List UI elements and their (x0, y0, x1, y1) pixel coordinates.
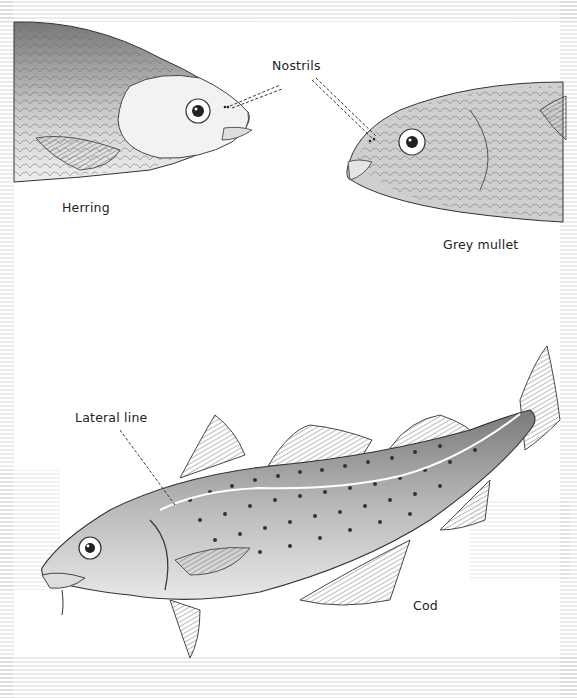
label-grey-mullet: Grey mullet (443, 237, 518, 252)
label-cod: Cod (413, 598, 438, 613)
label-herring: Herring (62, 200, 110, 215)
cod-illustration (42, 346, 560, 658)
nostrils-leader-lines (230, 78, 376, 138)
grey-mullet-illustration (347, 82, 566, 222)
herring-illustration (14, 22, 252, 182)
fish-illustration: Nostrils Herring Grey mullet Lateral lin… (0, 0, 577, 698)
label-nostrils: Nostrils (272, 58, 321, 73)
label-lateral-line: Lateral line (75, 410, 147, 425)
illustration-canvas (0, 0, 577, 698)
